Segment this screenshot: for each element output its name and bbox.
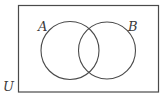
set-b-circle [79,22,136,79]
venn-diagram: A B U [0,0,165,101]
set-b-label: B [127,19,138,34]
set-a-label: A [37,19,47,34]
set-a-circle [41,22,99,80]
universe-label: U [3,79,15,94]
